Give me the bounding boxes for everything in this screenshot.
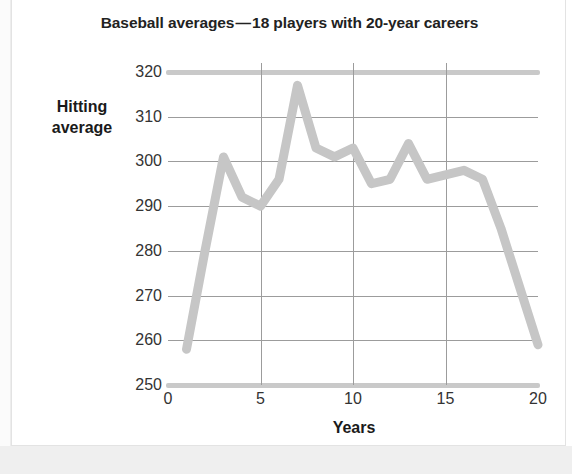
x-tick-label: 20 — [518, 390, 558, 408]
y-tick-label: 290 — [116, 197, 162, 215]
x-axis-title: Years — [168, 419, 540, 437]
y-tick-label: 280 — [116, 242, 162, 260]
x-tick-label: 0 — [148, 390, 188, 408]
y-tick-label: 320 — [116, 63, 162, 81]
chart-title: Baseball averages — 18 players with 20-y… — [12, 14, 567, 32]
x-tick-label: 10 — [333, 390, 373, 408]
chart-figure-card: Baseball averages — 18 players with 20-y… — [11, 0, 566, 446]
page-left-margin-band — [0, 0, 11, 446]
y-axis-tick-labels: 250260270280290300310320 — [116, 63, 162, 385]
x-tick-label: 5 — [241, 390, 281, 408]
x-tick-label: 15 — [426, 390, 466, 408]
plot-area — [168, 63, 538, 385]
y-tick-label: 300 — [116, 152, 162, 170]
data-series-plot — [168, 63, 538, 385]
page-bottom-band — [0, 446, 572, 474]
hitting-average-line — [187, 85, 539, 349]
y-tick-label: 270 — [116, 287, 162, 305]
y-tick-label: 260 — [116, 331, 162, 349]
x-axis-tick-labels: 05101520 — [168, 390, 538, 412]
y-tick-label: 310 — [116, 108, 162, 126]
